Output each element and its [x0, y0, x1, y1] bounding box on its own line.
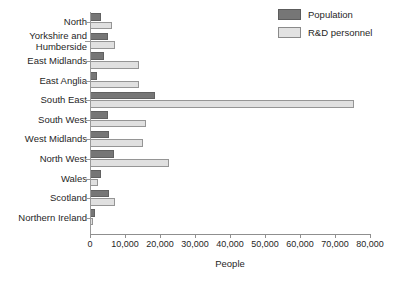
x-tick-label: 70,000 [321, 239, 349, 249]
bar-rd-personnel [90, 198, 115, 206]
chart-category-row: Scotland [0, 188, 407, 208]
plot-area: NorthYorkshire and HumbersideEast Midlan… [0, 12, 407, 234]
category-label: Yorkshire and Humberside [0, 31, 87, 52]
category-bars [90, 208, 390, 228]
category-label: Scotland [0, 193, 87, 204]
category-bars [90, 71, 390, 91]
x-tick-line [300, 234, 301, 238]
category-label: Wales [0, 173, 87, 184]
bar-rd-personnel [90, 100, 354, 108]
bar-rd-personnel [90, 61, 139, 69]
bar-rd-personnel [90, 139, 143, 147]
bar-rd-personnel [90, 22, 112, 30]
bar-population [90, 170, 101, 178]
chart-category-row: Northern Ireland [0, 208, 407, 228]
category-bars [90, 51, 390, 71]
bar-population [90, 190, 109, 198]
bar-rd-personnel [90, 179, 98, 187]
x-tick-line [230, 234, 231, 238]
category-bars [90, 169, 390, 189]
x-tick-label: 0 [87, 239, 92, 249]
chart-category-row: North West [0, 149, 407, 169]
x-tick-label: 20,000 [146, 239, 174, 249]
category-label: Northern Ireland [0, 212, 87, 223]
chart-category-row: East Anglia [0, 71, 407, 91]
x-axis-ticks: 010,00020,00030,00040,00050,00060,00070,… [0, 234, 407, 254]
y-axis-line [90, 12, 91, 235]
chart-category-row: West Midlands [0, 130, 407, 150]
chart-category-row: Wales [0, 169, 407, 189]
category-bars [90, 32, 390, 52]
category-bars [90, 110, 390, 130]
bar-population [90, 13, 101, 21]
bar-rd-personnel [90, 41, 115, 49]
category-bars [90, 130, 390, 150]
bar-rd-personnel [90, 159, 169, 167]
x-tick-label: 50,000 [251, 239, 279, 249]
bar-population [90, 33, 108, 41]
bar-rd-personnel [90, 120, 146, 128]
x-tick-line [335, 234, 336, 238]
x-tick-label: 40,000 [216, 239, 244, 249]
category-rows: NorthYorkshire and HumbersideEast Midlan… [0, 12, 407, 228]
bar-population [90, 72, 97, 80]
category-bars [90, 149, 390, 169]
bar-population [90, 52, 104, 60]
bar-rd-personnel [90, 81, 139, 89]
category-label: North West [0, 154, 87, 165]
chart-category-row: East Midlands [0, 51, 407, 71]
x-tick-line [265, 234, 266, 238]
category-label: West Midlands [0, 134, 87, 145]
x-tick-line [125, 234, 126, 238]
category-bars [90, 12, 390, 32]
x-tick-label: 30,000 [181, 239, 209, 249]
bar-population [90, 111, 108, 119]
bar-population [90, 150, 114, 158]
category-label: South West [0, 115, 87, 126]
category-label: South East [0, 95, 87, 106]
chart-category-row: South West [0, 110, 407, 130]
bar-population [90, 131, 109, 139]
x-tick-line [370, 234, 371, 238]
category-bars [90, 188, 390, 208]
x-tick-line [195, 234, 196, 238]
bar-chart-figure: Population R&D personnel NorthYorkshire … [0, 0, 407, 282]
category-label: North [0, 17, 87, 28]
chart-category-row: South East [0, 90, 407, 110]
category-label: East Anglia [0, 75, 87, 86]
x-axis-title: People [0, 258, 407, 269]
category-label: East Midlands [0, 56, 87, 67]
x-tick-line [160, 234, 161, 238]
x-tick-label: 80,000 [356, 239, 384, 249]
chart-category-row: North [0, 12, 407, 32]
bar-population [90, 92, 155, 100]
x-tick-label: 10,000 [111, 239, 139, 249]
x-tick-line [90, 234, 91, 238]
chart-category-row: Yorkshire and Humberside [0, 32, 407, 52]
x-tick-label: 60,000 [286, 239, 314, 249]
category-bars [90, 90, 390, 110]
